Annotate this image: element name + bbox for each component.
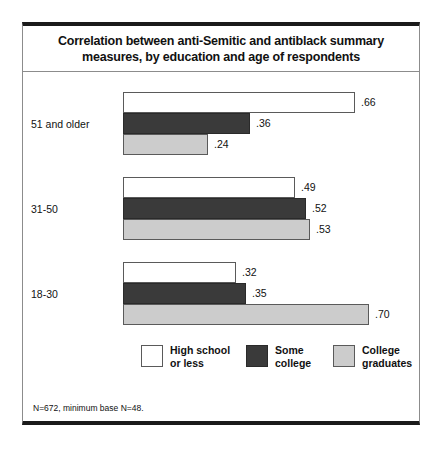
bar-high-school-or-less [123, 262, 236, 283]
chart-footnote: N=672, minimum base N=48. [33, 403, 144, 413]
bar-value-label: .49 [295, 177, 316, 198]
bar-group-31-50: 31-50 .49 .52 .53 [23, 177, 419, 241]
bar-row: .35 [123, 283, 419, 304]
bar-value-label: .66 [355, 92, 376, 113]
bar-high-school-or-less [123, 177, 295, 198]
bar-value-label: .24 [208, 134, 229, 155]
bar-some-college [123, 113, 250, 134]
page-title-line-1: Correlation between anti-Semitic and ant… [45, 33, 397, 49]
legend-swatch-high-school-or-less [141, 345, 163, 367]
bar-value-label: .35 [246, 283, 267, 304]
bar-row: .70 [123, 304, 419, 325]
bar-value-label: .36 [250, 113, 271, 134]
bar-college-graduates [123, 304, 369, 325]
chart-legend: High school or less Some college College… [23, 344, 419, 390]
bar-group-bars: .66 .36 .24 [123, 92, 419, 156]
bar-row: .36 [123, 113, 419, 134]
legend-item-some-college: Some college [246, 344, 311, 369]
bar-row: .52 [123, 198, 419, 219]
legend-label-some-college: Some college [275, 344, 311, 369]
legend-item-college-graduates: College graduates [333, 344, 412, 369]
legend-label-line-1: High school [170, 344, 230, 357]
chart-title-block: Correlation between anti-Semitic and ant… [23, 26, 419, 72]
bar-value-label: .32 [236, 262, 257, 283]
bar-some-college [123, 283, 246, 304]
legend-item-high-school-or-less: High school or less [141, 344, 230, 369]
category-label-18-30: 18-30 [31, 262, 123, 326]
bar-row: .32 [123, 262, 419, 283]
bar-value-label: .70 [369, 304, 390, 325]
legend-label-line-1: College [362, 344, 412, 357]
legend-swatch-some-college [246, 345, 268, 367]
page-title-line-2: measures, by education and age of respon… [45, 49, 397, 65]
bar-group-bars: .49 .52 .53 [123, 177, 419, 241]
bar-some-college [123, 198, 306, 219]
bar-row: .24 [123, 134, 419, 155]
legend-label-college-graduates: College graduates [362, 344, 412, 369]
legend-label-high-school-or-less: High school or less [170, 344, 230, 369]
bar-high-school-or-less [123, 92, 355, 113]
bar-value-label: .52 [306, 198, 327, 219]
legend-swatch-college-graduates [333, 345, 355, 367]
legend-label-line-1: Some [275, 344, 311, 357]
bar-group-51-and-older: 51 and older .66 .36 .24 [23, 92, 419, 156]
bar-group-18-30: 18-30 .32 .35 .70 [23, 262, 419, 326]
chart-plot-area: 51 and older .66 .36 .24 31-50 [23, 72, 419, 340]
legend-label-line-2: college [275, 357, 311, 370]
bar-college-graduates [123, 134, 208, 155]
bar-row: .49 [123, 177, 419, 198]
chart-figure: Correlation between anti-Semitic and ant… [22, 22, 420, 425]
bar-group-bars: .32 .35 .70 [123, 262, 419, 326]
bar-row: .53 [123, 219, 419, 240]
bar-college-graduates [123, 219, 310, 240]
bar-row: .66 [123, 92, 419, 113]
legend-label-line-2: graduates [362, 357, 412, 370]
legend-label-line-2: or less [170, 357, 230, 370]
bar-value-label: .53 [310, 219, 331, 240]
category-label-51-and-older: 51 and older [31, 92, 123, 156]
category-label-31-50: 31-50 [31, 177, 123, 241]
